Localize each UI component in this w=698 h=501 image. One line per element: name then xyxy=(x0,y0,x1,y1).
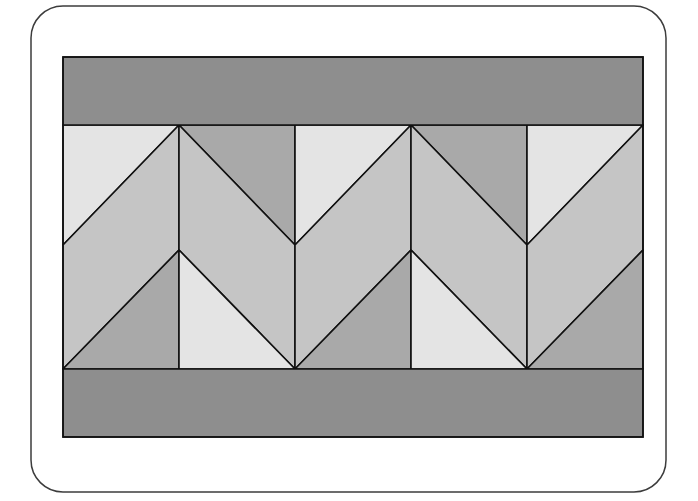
top-border-band xyxy=(63,57,643,125)
chevron-row xyxy=(63,125,643,369)
quilt-diagram xyxy=(0,0,698,501)
bottom-border-band xyxy=(63,369,643,437)
